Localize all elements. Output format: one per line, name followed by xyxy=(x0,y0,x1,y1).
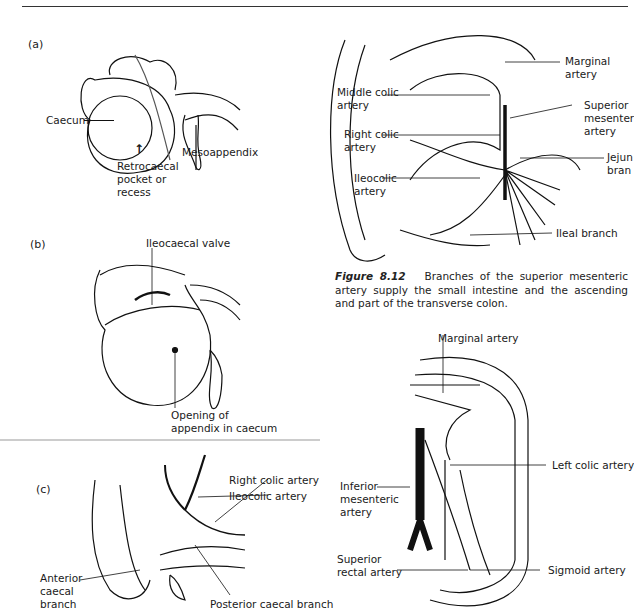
label-posterior-caecal: Posterior caecal branch xyxy=(210,598,333,611)
label-caecum: Caecum xyxy=(46,114,89,127)
label-marginal-2: artery xyxy=(565,68,597,81)
label-superior-rectal-1: Superior xyxy=(337,553,381,566)
label-left-colic: Left colic artery xyxy=(552,459,634,472)
label-anterior-1: Anterior xyxy=(40,572,82,585)
leader-line xyxy=(84,120,114,121)
figure-number: Figure 8.12 xyxy=(335,270,406,282)
label-ileocaecal-valve: Ileocaecal valve xyxy=(146,237,230,250)
label-ima-3: artery xyxy=(340,506,372,519)
label-opening-1: Opening of xyxy=(171,409,229,422)
inferior-mesenteric-illustration xyxy=(377,335,546,606)
label-ileocolic: Ileocolic artery xyxy=(229,490,307,503)
label-marginal-1: Marginal xyxy=(565,55,610,68)
label-retrocaecal-2: pocket or xyxy=(117,173,166,186)
label-anterior-3: branch xyxy=(40,598,77,611)
figure-caption: Figure 8.12 Branches of the superior mes… xyxy=(335,270,628,311)
label-right-colic-2: artery xyxy=(344,141,376,154)
label-ima-1: Inferior xyxy=(340,480,378,493)
panel-a-label: (a) xyxy=(28,38,43,51)
label-ileocolic-2: artery xyxy=(354,185,386,198)
label-sigmoid: Sigmoid artery xyxy=(548,564,626,577)
label-sma-3: artery xyxy=(584,125,616,138)
label-sma-1: Superior xyxy=(584,99,628,112)
label-ima-2: mesenteric xyxy=(340,493,399,506)
label-jejunal-1: Jejun xyxy=(607,151,633,164)
label-right-colic: Right colic artery xyxy=(229,474,319,487)
label-marginal-artery: Marginal artery xyxy=(438,332,518,345)
label-ileocolic-1: Ileocolic xyxy=(354,172,397,185)
label-middle-colic-2: artery xyxy=(337,99,369,112)
panel-c-label: (c) xyxy=(36,483,51,496)
label-ileal-branch: Ileal branch xyxy=(556,227,618,240)
label-retrocaecal-3: recess xyxy=(117,186,151,199)
label-middle-colic-1: Middle colic xyxy=(337,86,399,99)
label-retrocaecal-1: Retrocaecal xyxy=(117,160,179,173)
label-jejunal-2: bran xyxy=(607,164,631,177)
opened-caecum-illustration xyxy=(95,248,240,409)
label-superior-rectal-2: rectal artery xyxy=(337,566,402,579)
label-opening-2: appendix in caecum xyxy=(171,422,277,435)
arrow-up-icon: ↑ xyxy=(134,143,144,156)
label-anterior-2: caecal xyxy=(40,585,74,598)
panel-b-label: (b) xyxy=(30,238,46,251)
label-right-colic-1: Right colic xyxy=(344,128,399,141)
label-mesoappendix: Mesoappendix xyxy=(182,146,258,159)
label-sma-2: mesenter xyxy=(584,112,634,125)
